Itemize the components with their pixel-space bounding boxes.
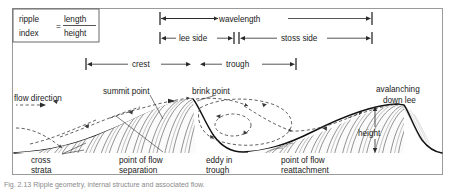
formula-equals: =	[56, 22, 61, 31]
bedform-diagram-svg: ripple index = length height wavelength …	[0, 0, 456, 190]
annotation-avalanching-line2: down lee	[383, 96, 416, 105]
annotation-brink-point: brink point	[192, 87, 231, 96]
annotation-flow-separation-line1: point of flow	[119, 156, 163, 165]
dimension-label-trough: trough	[226, 60, 250, 69]
annotation-flow-direction: flow direction	[14, 94, 62, 103]
dimension-label-wavelength: wavelength	[218, 15, 261, 24]
formula-name-line2: index	[19, 29, 39, 38]
annotation-reattachment-line1: point of flow	[281, 156, 325, 165]
formula-denominator: height	[64, 29, 87, 38]
dimension-label-height: height	[358, 129, 381, 138]
formula-name-line1: ripple	[19, 15, 39, 24]
ripple-index-formula-box: ripple index = length height	[13, 9, 99, 42]
annotation-reattachment-line2: reattachment	[281, 166, 330, 175]
annotation-cross-strata-line2: strata	[31, 166, 52, 175]
annotation-eddy-line2: trough	[206, 166, 230, 175]
figure-caption: Fig. 2.13 Ripple geometry, internal stru…	[4, 181, 205, 189]
annotation-eddy-line1: eddy in	[206, 156, 233, 165]
dimension-label-stoss-side: stoss side	[281, 34, 318, 43]
annotation-summit-point: summit point	[103, 87, 150, 96]
annotation-avalanching-line1: avalanching	[376, 85, 420, 94]
dimension-label-crest: crest	[132, 60, 150, 69]
annotation-flow-separation-line2: separation	[119, 166, 158, 175]
figure-container: ripple index = length height wavelength …	[0, 0, 456, 190]
annotation-cross-strata-line1: cross	[31, 156, 51, 165]
dimension-label-lee-side: lee side	[179, 34, 208, 43]
formula-numerator: length	[64, 15, 87, 24]
